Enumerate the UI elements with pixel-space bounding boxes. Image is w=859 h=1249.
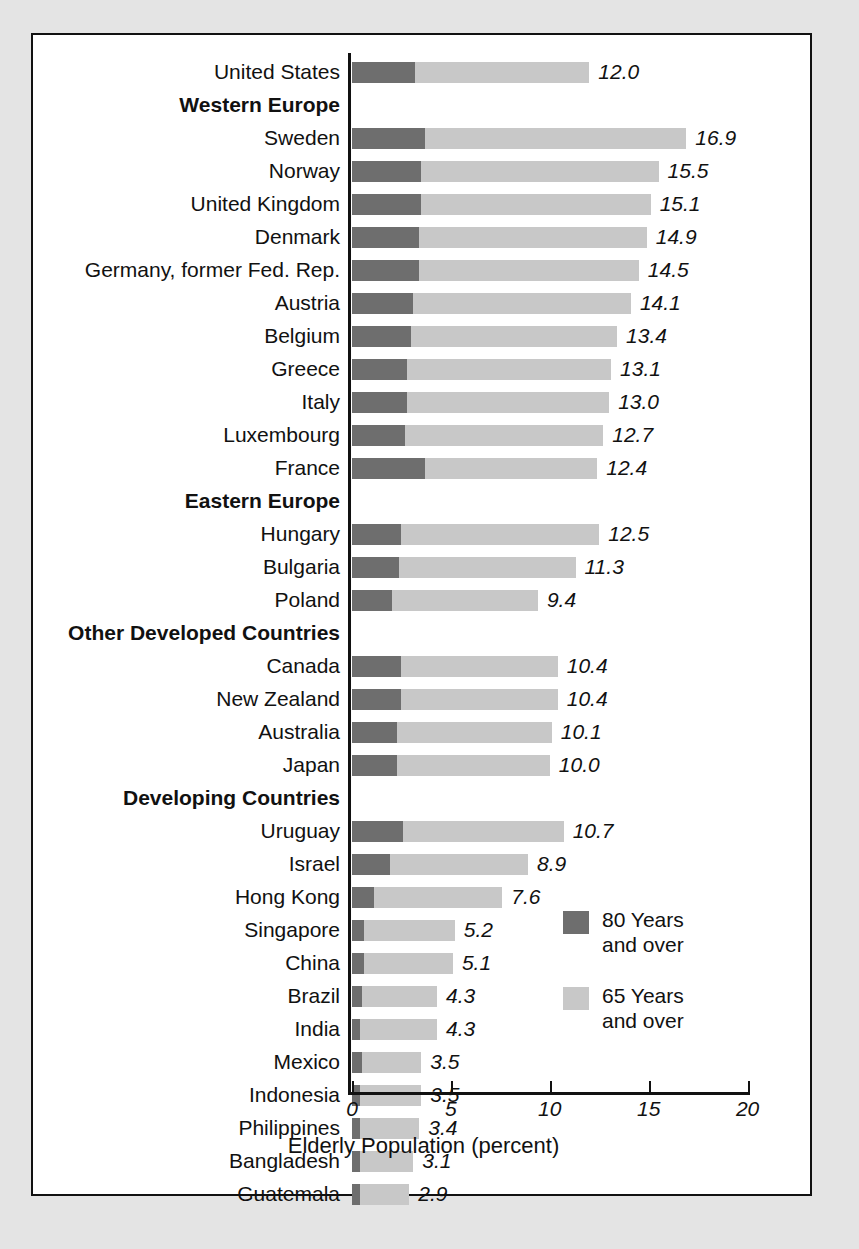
stacked-bar [352,1052,421,1073]
bar-value-label: 9.4 [547,588,576,612]
bar-row: Australia10.1 [33,716,810,749]
country-label: Indonesia [249,1079,346,1112]
country-label: Israel [289,848,346,881]
bar-segment-80-plus [352,227,419,248]
bar-row: Indonesia3.5 [33,1079,810,1112]
legend-label: 80 Years and over [602,907,684,957]
bar-row: United Kingdom15.1 [33,188,810,221]
bar-segment-80-plus [352,326,411,347]
group-heading-row: Eastern Europe [33,485,810,518]
stacked-bar [352,986,437,1007]
bar-segment-80-plus [352,821,403,842]
stacked-bar [352,689,558,710]
bar-row: Germany, former Fed. Rep.14.5 [33,254,810,287]
stacked-bar [352,854,528,875]
stacked-bar [352,392,609,413]
bar-segment-80-plus [352,887,374,908]
bar-value-label: 16.9 [695,126,736,150]
group-heading-row: Other Developed Countries [33,617,810,650]
stacked-bar [352,293,631,314]
bar-segment-65-plus [401,689,557,710]
stacked-bar [352,458,597,479]
bar-row: Israel8.9 [33,848,810,881]
bar-segment-65-plus [407,392,609,413]
bar-segment-65-plus [411,326,617,347]
stacked-bar [352,656,558,677]
stacked-bar [352,1184,409,1205]
country-label: Uruguay [261,815,346,848]
bar-value-label: 10.4 [567,687,608,711]
stacked-bar [352,161,659,182]
bar-segment-80-plus [352,557,399,578]
bar-segment-80-plus [352,1019,360,1040]
bar-row: Japan10.0 [33,749,810,782]
country-label: Poland [275,584,346,617]
stacked-bar [352,722,552,743]
stacked-bar [352,524,599,545]
bar-value-label: 8.9 [537,852,566,876]
bar-segment-80-plus [352,953,364,974]
country-label: Sweden [264,122,346,155]
bar-segment-65-plus [399,557,575,578]
x-axis-tick [649,1081,651,1093]
stacked-bar [352,62,589,83]
bar-segment-80-plus [352,62,415,83]
bar-value-label: 5.1 [462,951,491,975]
bar-value-label: 10.4 [567,654,608,678]
bar-segment-80-plus [352,755,397,776]
bar-row: Sweden16.9 [33,122,810,155]
bar-segment-65-plus [415,62,589,83]
legend-item: 80 Years and over [563,907,783,957]
legend-label: 65 Years and over [602,983,684,1033]
bar-segment-80-plus [352,590,392,611]
country-label: India [294,1013,346,1046]
bar-segment-65-plus [392,590,538,611]
country-label: Greece [271,353,346,386]
country-label: Singapore [244,914,346,947]
bar-segment-80-plus [352,359,407,380]
bar-segment-80-plus [352,293,413,314]
bar-value-label: 11.3 [585,555,624,579]
bar-segment-65-plus [421,194,650,215]
bar-segment-80-plus [352,689,401,710]
bar-segment-65-plus [419,260,639,281]
bar-value-label: 4.3 [446,1017,475,1041]
stacked-bar [352,260,639,281]
legend-swatch-80plus [563,911,589,934]
bar-segment-65-plus [421,161,658,182]
chart-plot-area: United States12.0Western EuropeSweden16.… [33,35,810,1194]
bar-row: United States12.0 [33,56,810,89]
bar-value-label: 14.9 [656,225,697,249]
bar-row: France12.4 [33,452,810,485]
bar-segment-80-plus [352,425,405,446]
stacked-bar [352,920,455,941]
bar-row: Guatemala2.9 [33,1178,810,1211]
bar-segment-80-plus [352,656,401,677]
stacked-bar [352,359,611,380]
x-axis-tick-label: 15 [637,1097,660,1121]
bar-segment-65-plus [401,524,599,545]
bar-segment-65-plus [374,887,503,908]
country-label: France [275,452,346,485]
country-label: Brazil [287,980,346,1013]
bar-segment-80-plus [352,161,421,182]
country-label: Hungary [261,518,346,551]
bar-segment-65-plus [403,821,563,842]
x-axis-line [348,1092,750,1095]
bar-value-label: 13.1 [620,357,661,381]
group-heading-label: Other Developed Countries [68,617,346,650]
bar-segment-80-plus [352,1052,362,1073]
bar-segment-65-plus [397,755,549,776]
x-axis-tick-label: 5 [445,1097,457,1121]
country-label: Japan [283,749,346,782]
bar-value-label: 12.7 [612,423,653,447]
bar-segment-65-plus [397,722,551,743]
bar-segment-80-plus [352,458,425,479]
country-label: Guatemala [237,1178,346,1211]
group-heading-label: Developing Countries [123,782,346,815]
bar-segment-80-plus [352,920,364,941]
bar-value-label: 10.1 [561,720,602,744]
country-label: Luxembourg [223,419,346,452]
x-axis-tick [550,1081,552,1093]
bar-value-label: 15.1 [660,192,701,216]
